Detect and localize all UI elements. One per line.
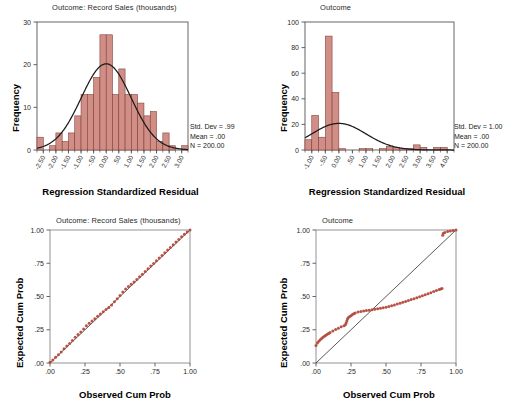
data-point <box>371 308 374 311</box>
data-point <box>152 262 155 265</box>
data-point <box>155 259 158 262</box>
data-point <box>443 231 446 234</box>
x-tick-label: 1.00 <box>357 154 369 169</box>
data-point <box>427 292 430 295</box>
x-tick-label: .50 <box>115 368 125 375</box>
data-point <box>169 246 172 249</box>
data-point <box>105 308 108 311</box>
y-tick-label: 80 <box>291 44 299 51</box>
data-point <box>186 231 189 234</box>
data-point <box>107 306 110 309</box>
x-tick-label: 2.50 <box>397 154 409 169</box>
data-point <box>399 302 402 305</box>
x-tick-label: -1.00 <box>71 154 84 171</box>
data-point <box>135 278 138 281</box>
data-point <box>77 333 80 336</box>
data-point <box>138 275 141 278</box>
x-tick-label: .75 <box>416 368 426 375</box>
data-point <box>413 297 416 300</box>
data-point <box>396 303 399 306</box>
data-point <box>415 296 418 299</box>
data-point <box>63 347 66 350</box>
data-point <box>102 310 105 313</box>
x-tick-label: .00 <box>311 368 321 375</box>
x-tick-label: 0.00 <box>330 154 342 169</box>
panel-histogram-right: Outcome Frequency Regression Standardize… <box>264 0 528 208</box>
data-point <box>91 320 94 323</box>
x-tick-label: 2.00 <box>384 154 396 169</box>
data-point <box>133 281 136 284</box>
data-point <box>189 229 192 232</box>
histogram-right-canvas: 020406080100-1.00-.500.00.501.001.502.00… <box>264 0 528 208</box>
data-point <box>85 324 88 327</box>
data-point <box>410 298 413 301</box>
data-point <box>51 359 54 362</box>
data-points <box>49 229 192 364</box>
x-tick-label: .50 <box>111 154 122 166</box>
histogram-left-canvas: 0102030-2.50-2.00-1.50-1.00-.500.00.501.… <box>0 0 264 208</box>
y-tick-label: 1.00 <box>30 227 44 234</box>
x-tick-label: 3.00 <box>411 154 423 169</box>
data-point <box>418 295 421 298</box>
data-point <box>334 328 337 331</box>
data-point <box>116 297 119 300</box>
y-tick-label: 20 <box>291 121 299 128</box>
data-point <box>387 305 390 308</box>
x-tick-label: .50 <box>345 154 356 166</box>
data-point <box>452 229 455 232</box>
histogram-bar <box>68 133 74 150</box>
y-tick-label: 40 <box>291 95 299 102</box>
data-point <box>180 235 183 238</box>
data-point <box>177 238 180 241</box>
data-point <box>393 303 396 306</box>
y-tick-label: 20 <box>23 61 31 68</box>
x-tick-label: 1.50 <box>370 154 382 169</box>
y-tick-label: 1.00 <box>296 227 310 234</box>
x-tick-label: -.50 <box>85 154 97 168</box>
y-tick-label: .25 <box>300 326 310 333</box>
data-point <box>449 229 452 232</box>
data-point <box>57 353 60 356</box>
x-tick-label: .50 <box>381 368 391 375</box>
data-points <box>315 229 458 347</box>
y-tick-label: .75 <box>34 260 44 267</box>
x-tick-label: 4.00 <box>438 154 450 169</box>
data-point <box>429 291 432 294</box>
data-point <box>113 300 116 303</box>
data-point <box>74 336 77 339</box>
data-point <box>144 270 147 273</box>
histogram-bar <box>87 95 93 150</box>
data-point <box>407 299 410 302</box>
x-tick-label: -1.50 <box>58 154 71 171</box>
data-point <box>390 304 393 307</box>
panel-histogram-left: Outcome: Record Sales (thousands) Freque… <box>0 0 264 208</box>
data-point <box>446 230 449 233</box>
histogram-bar <box>100 35 106 150</box>
x-tick-label: 1.50 <box>135 154 147 169</box>
histogram-bar <box>81 95 87 150</box>
x-tick-label: .00 <box>45 368 55 375</box>
data-point <box>175 241 178 244</box>
y-tick-label: .00 <box>300 360 310 367</box>
data-point <box>147 267 150 270</box>
data-point <box>340 325 343 328</box>
y-tick-label: .75 <box>300 260 310 267</box>
data-point <box>166 249 169 252</box>
data-point <box>163 251 166 254</box>
figure-grid: Outcome: Record Sales (thousands) Freque… <box>0 0 528 416</box>
histogram-bar <box>75 116 81 150</box>
data-point <box>183 233 186 236</box>
histogram-bar <box>62 141 68 150</box>
data-point <box>119 294 122 297</box>
histogram-bar <box>150 112 156 150</box>
data-point <box>49 361 52 364</box>
data-point <box>82 327 85 330</box>
data-point <box>337 327 340 330</box>
data-point <box>455 229 458 232</box>
histogram-bar <box>50 146 56 150</box>
x-tick-label: .75 <box>150 368 160 375</box>
y-tick-label: 60 <box>291 70 299 77</box>
histogram-bar <box>366 149 373 150</box>
x-tick-label: -2.00 <box>46 154 59 171</box>
data-point <box>329 331 332 334</box>
